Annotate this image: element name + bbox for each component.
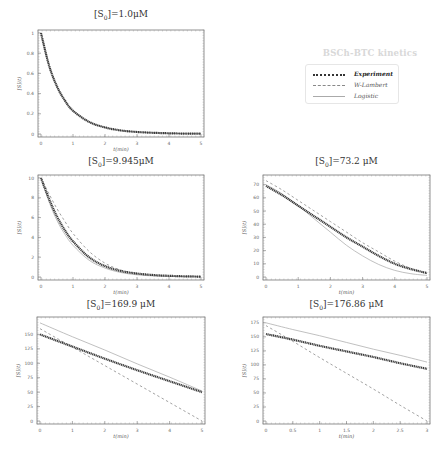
y-tick-label: 75	[253, 376, 259, 381]
y-tick-label: 100	[250, 362, 259, 367]
series-logistic	[266, 323, 427, 362]
legend-label: Logistic	[354, 91, 378, 101]
y-axis-label: [S](t)	[241, 364, 247, 377]
legend: Experiment W-Lambert Logistic	[305, 64, 399, 104]
y-tick-label: 0	[256, 419, 259, 424]
legend-entry-logistic: Logistic	[306, 91, 398, 102]
y-tick-label: 175	[250, 320, 259, 325]
x-axis-label: t(min)	[339, 433, 355, 439]
x-tick-label: 0.5	[289, 428, 296, 433]
experiment-swatch-icon	[313, 74, 345, 76]
series-experiment	[266, 334, 427, 369]
y-tick-label: 150	[250, 334, 259, 339]
logistic-swatch-icon	[313, 96, 345, 97]
legend-label: Experiment	[354, 69, 393, 79]
legend-entry-experiment: Experiment	[306, 69, 398, 80]
legend-label: W-Lambert	[354, 80, 388, 90]
series-w-lambert	[266, 326, 427, 421]
x-tick-label: 2	[372, 428, 375, 433]
w-lambert-swatch-icon	[313, 85, 345, 86]
legend-entry-w-lambert: W-Lambert	[306, 80, 398, 91]
x-tick-label: 1	[318, 428, 321, 433]
x-tick-label: 2.5	[397, 428, 404, 433]
x-tick-label: 3	[426, 428, 429, 433]
y-tick-label: 50	[253, 390, 259, 395]
legend-title: BSCh-BTC kinetics	[300, 48, 440, 58]
y-tick-label: 125	[250, 348, 259, 353]
y-tick-label: 25	[253, 404, 259, 409]
x-tick-label: 0	[265, 428, 268, 433]
